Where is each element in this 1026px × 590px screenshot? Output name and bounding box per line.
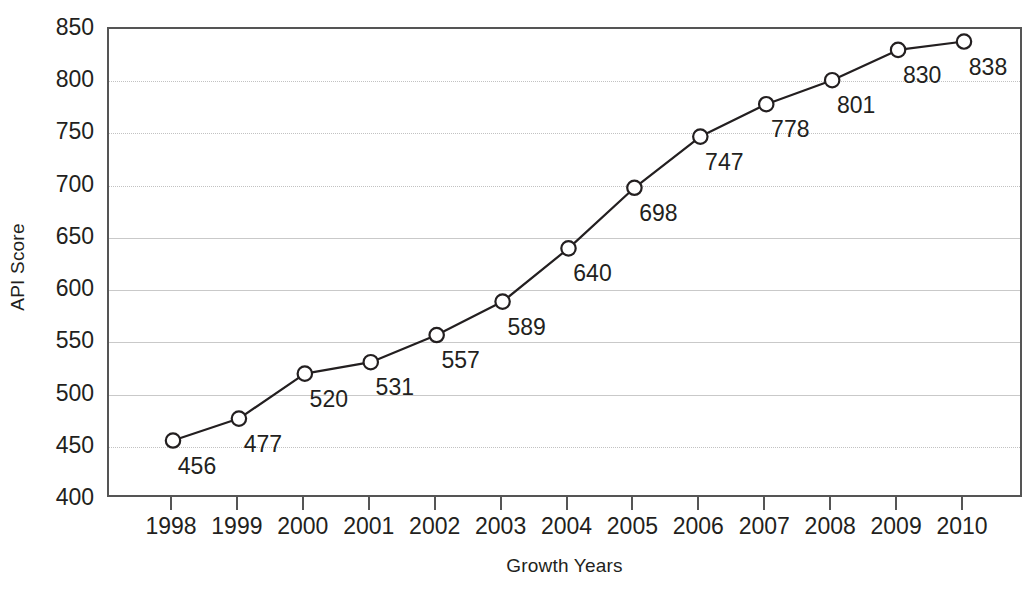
- data-point-label: 747: [705, 149, 743, 176]
- x-axis-tick-label: 2010: [936, 513, 987, 540]
- x-axis-tick-label: 2000: [277, 513, 328, 540]
- data-point-label: 531: [376, 374, 414, 401]
- x-axis-tick: [763, 497, 765, 510]
- x-axis-tick: [961, 497, 963, 510]
- x-axis-tick: [302, 497, 304, 510]
- data-point-label: 557: [442, 347, 480, 374]
- data-point-marker: [166, 433, 180, 447]
- x-axis-tick-label: 2008: [805, 513, 856, 540]
- x-axis-tick-label: 2001: [343, 513, 394, 540]
- data-point-marker: [627, 181, 641, 195]
- y-axis-tick-label: 450: [56, 431, 94, 458]
- data-point-marker: [429, 328, 443, 342]
- data-point-label: 640: [573, 260, 611, 287]
- x-axis-tick: [236, 497, 238, 510]
- y-axis-tick-labels: 850800750700650600550500450400: [0, 0, 100, 590]
- x-axis-tick-label: 2002: [409, 513, 460, 540]
- data-point-marker: [759, 97, 773, 111]
- data-point-label: 830: [903, 62, 941, 89]
- data-point-label: 698: [639, 200, 677, 227]
- x-axis-tick: [170, 497, 172, 510]
- data-point-label: 520: [310, 386, 348, 413]
- data-point-marker: [232, 411, 246, 425]
- data-point-label: 477: [244, 431, 282, 458]
- x-axis-tick: [566, 497, 568, 510]
- x-axis-tick: [697, 497, 699, 510]
- data-point-label: 778: [771, 116, 809, 143]
- data-point-label: 801: [837, 92, 875, 119]
- x-axis-tick-label: 2005: [607, 513, 658, 540]
- data-point-marker: [495, 294, 509, 308]
- y-axis-tick-label: 500: [56, 379, 94, 406]
- y-axis-tick-label: 550: [56, 327, 94, 354]
- x-axis-tick-label: 2007: [739, 513, 790, 540]
- data-point-marker: [957, 34, 971, 48]
- data-point-marker: [298, 366, 312, 380]
- x-axis-title: Growth Years: [107, 555, 1022, 577]
- x-axis-tick-label: 2003: [475, 513, 526, 540]
- y-axis-tick-label: 650: [56, 222, 94, 249]
- plot-area: 456477520531557589640698747778801830838: [107, 27, 1022, 497]
- data-point-marker: [891, 43, 905, 57]
- data-point-marker: [825, 73, 839, 87]
- x-axis-tick-label: 1998: [145, 513, 196, 540]
- data-point-marker: [561, 241, 575, 255]
- x-axis-tick: [829, 497, 831, 510]
- data-point-label: 456: [178, 453, 216, 480]
- x-axis-tick-label: 2004: [541, 513, 592, 540]
- y-axis-tick-label: 700: [56, 170, 94, 197]
- data-series-layer: [109, 29, 1024, 499]
- x-axis-tick-label: 1999: [211, 513, 262, 540]
- y-axis-tick-label: 800: [56, 66, 94, 93]
- x-axis-tick: [500, 497, 502, 510]
- x-axis-tick-label: 2006: [673, 513, 724, 540]
- x-axis-tick: [895, 497, 897, 510]
- x-axis-title-label: Growth Years: [506, 555, 622, 576]
- y-axis-tick-label: 400: [56, 484, 94, 511]
- x-axis-tick: [631, 497, 633, 510]
- data-point-label: 838: [969, 54, 1007, 81]
- x-axis-ticks: [107, 497, 1022, 511]
- x-axis-tick: [434, 497, 436, 510]
- y-axis-tick-label: 600: [56, 275, 94, 302]
- x-axis-tick-labels: 1998199920002001200220032004200520062007…: [107, 513, 1022, 545]
- data-point-label: 589: [507, 314, 545, 341]
- data-point-marker: [364, 355, 378, 369]
- x-axis-tick: [368, 497, 370, 510]
- data-point-marker: [693, 129, 707, 143]
- y-axis-tick-label: 750: [56, 118, 94, 145]
- x-axis-tick-label: 2009: [871, 513, 922, 540]
- y-axis-tick-label: 850: [56, 14, 94, 41]
- line-chart: API Score 850800750700650600550500450400…: [0, 0, 1026, 590]
